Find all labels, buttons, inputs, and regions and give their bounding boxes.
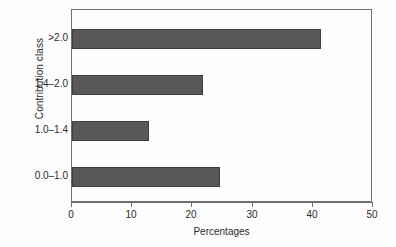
x-tick-label: 40 <box>292 209 332 220</box>
x-tick-mark <box>312 202 313 207</box>
x-tick-label: 0 <box>51 209 91 220</box>
x-tick-mark <box>71 202 72 207</box>
plot-area <box>71 9 372 202</box>
x-tick-label: 20 <box>171 209 211 220</box>
y-tick-label: 1.4–2.0 <box>8 78 68 89</box>
bar-chart-figure: Contribution class >2.01.4–2.01.0–1.40.0… <box>0 0 396 247</box>
x-tick-mark <box>131 202 132 207</box>
bar-0-0-1-0 <box>72 167 220 187</box>
x-axis-title: Percentages <box>71 226 372 237</box>
x-axis-line <box>71 202 373 203</box>
bar-2-0 <box>72 29 321 49</box>
y-tick-label: >2.0 <box>8 32 68 43</box>
x-tick-mark <box>252 202 253 207</box>
y-tick-label: 0.0–1.0 <box>8 170 68 181</box>
bar-1-0-1-4 <box>72 121 149 141</box>
x-tick-mark <box>191 202 192 207</box>
bar-1-4-2-0 <box>72 75 203 95</box>
x-tick-mark <box>372 202 373 207</box>
x-tick-label: 10 <box>111 209 151 220</box>
y-tick-label: 1.0–1.4 <box>8 124 68 135</box>
x-tick-label: 30 <box>232 209 272 220</box>
x-tick-label: 50 <box>352 209 392 220</box>
